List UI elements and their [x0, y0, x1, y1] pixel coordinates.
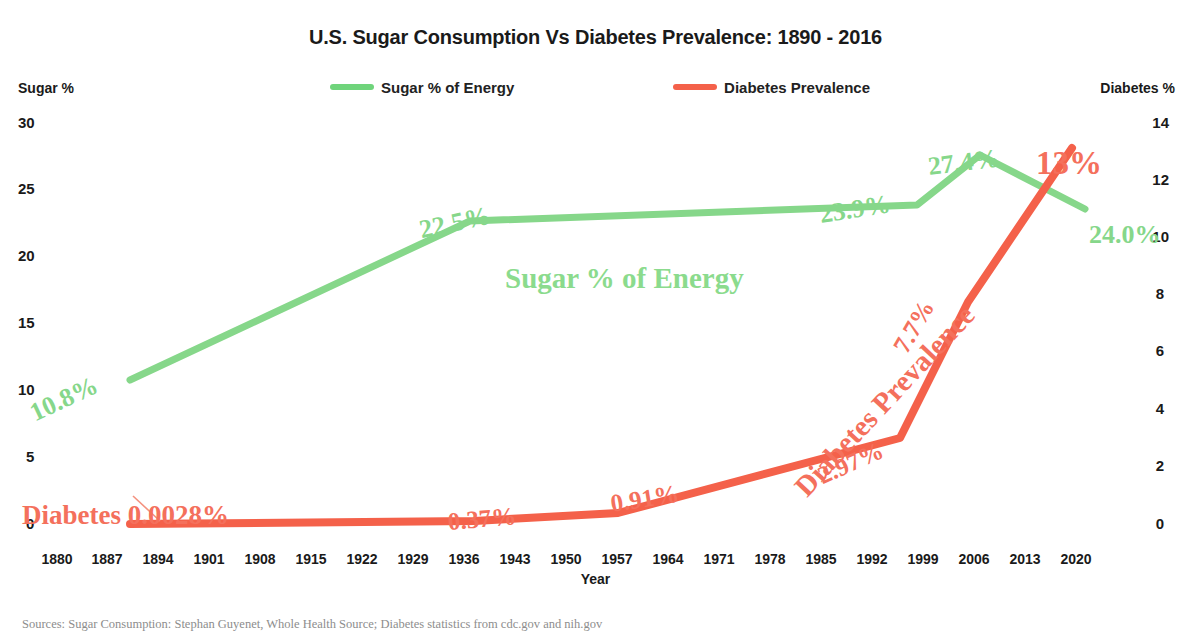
source-caption: Sources: Sugar Consumption: Stephan Guye…	[22, 617, 602, 632]
data-label-diabetes-2016: 13%	[1036, 145, 1102, 182]
data-label-diabetes-start: Diabetes 0.0028%	[22, 500, 229, 531]
data-label-diabetes-1935: 0.37%	[447, 502, 518, 536]
series-annotation-sugar: Sugar % of Energy	[505, 262, 744, 295]
data-label-sugar-2016: 24.0%	[1089, 220, 1161, 250]
